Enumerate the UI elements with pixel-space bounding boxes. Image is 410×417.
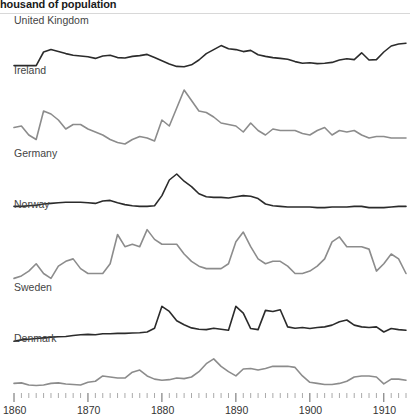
x-tick-label-1910: 1910 xyxy=(373,404,396,416)
x-tick-label-1860: 1860 xyxy=(3,404,26,416)
x-tick-label-1890: 1890 xyxy=(225,404,248,416)
x-tick-label-1880: 1880 xyxy=(151,404,174,416)
small-multiples-panels: United KingdomIrelandGermanyNorwaySweden… xyxy=(0,14,410,393)
x-axis: 186018701880189019001910 xyxy=(0,393,410,417)
x-axis-ticks xyxy=(0,393,410,404)
page-title: housand of population xyxy=(0,0,116,10)
x-tick-label-1870: 1870 xyxy=(77,404,100,416)
chart-page: housand of population United KingdomIrel… xyxy=(0,0,410,417)
series-line-denmark xyxy=(0,14,410,393)
x-tick-label-1900: 1900 xyxy=(299,404,322,416)
chart-title-bar: housand of population xyxy=(0,0,410,12)
